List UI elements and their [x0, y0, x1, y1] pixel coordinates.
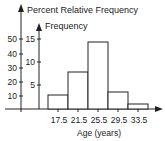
bar-17-5 [48, 95, 68, 109]
x-tick-33-5: 33.5 [131, 115, 148, 125]
x-tick-17-5: 17.5 [51, 115, 68, 125]
percent-axis-label: Percent Relative Frequency [27, 5, 139, 15]
freq-tick-5: 5 [30, 80, 35, 90]
x-tick-25-5: 25.5 [91, 115, 108, 125]
frequency-axis-label: Frequency [45, 21, 88, 31]
percent-tick-30: 30 [8, 63, 18, 73]
percent-tick-10: 10 [8, 91, 18, 101]
percent-tick-20: 20 [8, 77, 18, 87]
bars [48, 42, 148, 109]
freq-tick-10: 10 [26, 57, 36, 67]
bar-29-5 [108, 92, 128, 109]
histogram-chart: Percent Relative Frequency Frequency 50 … [0, 0, 165, 141]
x-axis-label: Age (years) [77, 128, 121, 138]
x-axis-arrow-icon [155, 106, 163, 112]
bar-21-5 [68, 72, 88, 109]
percent-tick-50: 50 [8, 34, 18, 44]
x-ticks: 17.5 21.5 25.5 29.5 33.5 [51, 109, 148, 125]
percent-axis-arrow-icon [18, 4, 24, 12]
frequency-axis-arrow-icon [36, 23, 42, 31]
bar-25-5 [88, 42, 108, 109]
x-tick-21-5: 21.5 [71, 115, 88, 125]
bar-33-5 [128, 104, 148, 109]
x-tick-29-5: 29.5 [111, 115, 128, 125]
percent-tick-40: 40 [8, 49, 18, 59]
freq-tick-15: 15 [26, 34, 36, 44]
